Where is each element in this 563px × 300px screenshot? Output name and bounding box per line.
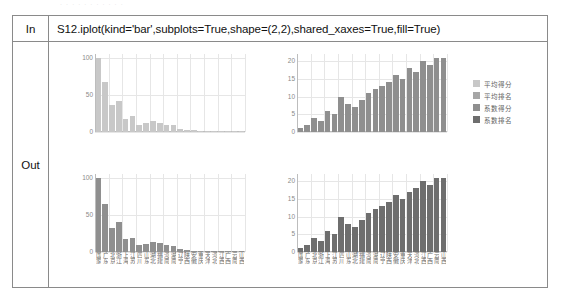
x-axis-tick-label: 山西 bbox=[239, 252, 245, 278]
bar bbox=[143, 244, 149, 252]
x-axis-tick-label: 上海 bbox=[325, 252, 331, 278]
bar bbox=[171, 125, 177, 132]
bar bbox=[393, 195, 399, 252]
x-axis-tick-label: 河北 bbox=[211, 252, 217, 278]
y-axis-tick-label: 10 bbox=[288, 213, 295, 220]
y-axis-tick-label: 50 bbox=[86, 92, 93, 99]
x-axis-tick-label: 河南 bbox=[366, 252, 372, 278]
bar bbox=[211, 131, 217, 132]
bar-series bbox=[297, 54, 447, 132]
bar bbox=[434, 178, 440, 252]
x-axis-tick-label: 云南 bbox=[232, 252, 238, 278]
bar bbox=[379, 86, 385, 132]
bar bbox=[359, 100, 365, 132]
bar bbox=[157, 123, 163, 132]
x-axis-tick-label: 湖北 bbox=[150, 252, 156, 278]
x-axis-tick-label: 湖北 bbox=[352, 252, 358, 278]
bar bbox=[352, 107, 358, 132]
x-axis-tick-label: 福建 bbox=[157, 252, 163, 278]
screenshot-root: · · · · · · · · · · · In S12.iplot(kind=… bbox=[0, 0, 563, 300]
subplot-figure: 05010005101520050100国家广东北京浙江上海江苏四川山东湖北福建… bbox=[49, 42, 547, 287]
y-axis-tick-label: 0 bbox=[291, 249, 295, 256]
bar bbox=[325, 111, 331, 132]
bar bbox=[123, 119, 129, 132]
faint-header-text: · · · · · · · · · · · bbox=[60, 1, 280, 11]
notebook-cell-table: In S12.iplot(kind='bar',subplots=True,sh… bbox=[12, 15, 548, 288]
legend-label: 系数得分 bbox=[484, 103, 512, 113]
bar bbox=[177, 129, 183, 132]
y-axis-tick-label: 5 bbox=[291, 231, 295, 238]
bar bbox=[304, 245, 310, 252]
bar bbox=[102, 204, 108, 252]
y-axis-tick-label: 0 bbox=[89, 129, 93, 136]
bar bbox=[386, 82, 392, 132]
x-axis-tick-label: 天津 bbox=[407, 252, 413, 278]
subplot-top-right: 05101520 bbox=[297, 54, 447, 132]
x-axis-tick-label: 云南 bbox=[434, 252, 440, 278]
bar bbox=[130, 116, 136, 132]
x-axis-tick-label: 国家 bbox=[96, 252, 102, 278]
bar bbox=[407, 68, 413, 132]
bar bbox=[379, 206, 385, 252]
legend-label: 平均得分 bbox=[484, 79, 512, 89]
plot-area: 05101520 bbox=[297, 54, 447, 132]
bar bbox=[400, 199, 406, 252]
bar bbox=[150, 242, 156, 252]
y-axis-tick-label: 0 bbox=[89, 249, 93, 256]
x-axis-tick-label: 辽宁 bbox=[379, 252, 385, 278]
gridline-vertical bbox=[245, 174, 246, 252]
code-input[interactable]: S12.iplot(kind='bar',subplots=True,shape… bbox=[49, 16, 547, 41]
x-axis-tick-label: 河北 bbox=[413, 252, 419, 278]
bar bbox=[143, 123, 149, 132]
x-axis-tick-label: 江苏 bbox=[332, 252, 338, 278]
x-axis-tick-label: 安徽 bbox=[393, 252, 399, 278]
y-axis-tick-label: 20 bbox=[288, 178, 295, 185]
subplot-bottom-left: 050100国家广东北京浙江上海江苏四川山东湖北福建河南湖南辽宁陕西安徽重庆天津… bbox=[95, 174, 245, 252]
x-axis-tick-label: 陕西 bbox=[386, 252, 392, 278]
x-axis-tick-label: 江西 bbox=[420, 252, 426, 278]
x-axis-tick-label: 四川 bbox=[338, 252, 344, 278]
bar bbox=[164, 245, 170, 252]
bar bbox=[413, 72, 419, 132]
bar bbox=[332, 234, 338, 252]
legend-item[interactable]: 平均排名 bbox=[473, 90, 512, 101]
bar bbox=[157, 243, 163, 252]
gridline-horizontal bbox=[95, 132, 245, 133]
x-axis-tick-label: 湖南 bbox=[373, 252, 379, 278]
bar bbox=[373, 89, 379, 132]
legend-item[interactable]: 平均得分 bbox=[473, 78, 512, 89]
bar bbox=[311, 118, 317, 132]
bar bbox=[441, 178, 447, 252]
x-axis-tick-label: 上海 bbox=[123, 252, 129, 278]
bar bbox=[413, 188, 419, 252]
subplot-top-left: 050100 bbox=[95, 54, 245, 132]
bar bbox=[239, 131, 245, 132]
out-label: Out bbox=[13, 42, 49, 287]
x-axis-tick-label: 山东 bbox=[143, 252, 149, 278]
bar bbox=[184, 130, 190, 132]
x-axis-tick-label: 福建 bbox=[359, 252, 365, 278]
bar bbox=[318, 121, 324, 132]
bar bbox=[218, 131, 224, 132]
bar bbox=[366, 213, 372, 252]
bar bbox=[136, 125, 142, 132]
bar bbox=[191, 130, 197, 132]
bar bbox=[393, 75, 399, 132]
x-axis-tick-label: 广西 bbox=[225, 252, 231, 278]
bar bbox=[96, 178, 102, 252]
bar bbox=[232, 131, 238, 132]
y-axis-tick-label: 10 bbox=[288, 93, 295, 100]
bar bbox=[318, 241, 324, 252]
y-axis-tick-label: 100 bbox=[82, 174, 93, 181]
figure-output: 05010005101520050100国家广东北京浙江上海江苏四川山东湖北福建… bbox=[49, 42, 547, 287]
x-axis-tick-label: 山西 bbox=[441, 252, 447, 278]
legend-item[interactable]: 系数得分 bbox=[473, 102, 512, 113]
bar bbox=[109, 228, 115, 253]
legend-item[interactable]: 系数排名 bbox=[473, 114, 512, 125]
bar bbox=[225, 131, 231, 132]
x-axis-tick-label: 广东 bbox=[102, 252, 108, 278]
bar bbox=[420, 61, 426, 132]
y-axis-tick-label: 0 bbox=[291, 129, 295, 136]
legend-swatch-icon bbox=[473, 104, 480, 111]
bar bbox=[298, 128, 304, 132]
